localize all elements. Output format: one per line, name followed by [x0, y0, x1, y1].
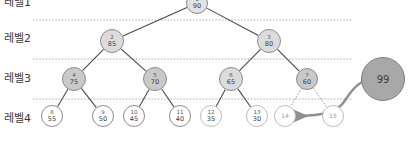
- tree-node-6[interactable]: 665: [219, 67, 243, 91]
- tree-edge-e3-6: [239, 49, 260, 70]
- binary-heap-diagram: 레벨1레벨2레벨3레벨4 190285380475570665760855950…: [0, 0, 411, 141]
- node-value-label: 90: [193, 3, 201, 10]
- node-value-label: 45: [130, 116, 138, 123]
- tree-node-9[interactable]: 950: [92, 105, 114, 127]
- tree-node-13[interactable]: 1330: [246, 105, 268, 127]
- tree-node-5[interactable]: 570: [143, 67, 167, 91]
- tree-node-8[interactable]: 855: [41, 105, 63, 127]
- tree-edge-e1-3: [207, 8, 259, 35]
- tree-edge-e7-14: [291, 88, 302, 106]
- tree-node-14[interactable]: 14: [274, 105, 296, 127]
- tree-node-15[interactable]: 15: [322, 105, 344, 127]
- tree-edge-e5-11: [162, 89, 174, 107]
- tree-edge-group: [58, 7, 327, 107]
- node-value-label: 75: [70, 79, 78, 86]
- insert-node-99[interactable]: 99: [361, 57, 405, 101]
- node-value-label: 30: [253, 116, 261, 123]
- node-value-label: 70: [151, 79, 159, 86]
- tree-node-4[interactable]: 475: [62, 67, 86, 91]
- node-value-label: 85: [108, 41, 116, 48]
- tree-node-11[interactable]: 1140: [169, 105, 191, 127]
- tree-node-10[interactable]: 1045: [123, 105, 145, 127]
- tree-edge-e5-10: [139, 89, 149, 106]
- tree-node-2[interactable]: 285: [100, 29, 124, 53]
- tree-edge-e6-12: [216, 90, 225, 107]
- tree-node-3[interactable]: 380: [257, 29, 281, 53]
- node-value-label: 35: [207, 116, 215, 123]
- node-value-label: 80: [265, 41, 273, 48]
- node-index-label: 14: [281, 113, 289, 119]
- tree-edge-e4-8: [58, 89, 68, 106]
- tree-edge-e2-5: [121, 49, 146, 71]
- tree-edge-e3-7: [277, 49, 299, 71]
- tree-edge-e6-13: [238, 89, 251, 107]
- level-label-level2: 레벨2: [4, 33, 31, 44]
- tree-node-12[interactable]: 1235: [200, 105, 222, 127]
- tree-edge-e4-9: [81, 88, 96, 107]
- tree-edge-e2-4: [82, 49, 103, 70]
- tree-edge-e7-15: [313, 88, 326, 107]
- node-value-label: 50: [99, 116, 107, 123]
- node-value-label: 40: [176, 116, 184, 123]
- level-label-level1: 레벨1: [4, 0, 31, 8]
- level-label-level3: 레벨3: [4, 73, 31, 84]
- tree-node-7[interactable]: 760: [296, 68, 318, 90]
- node-value-label: 65: [227, 79, 235, 86]
- level-label-level4: 레벨4: [4, 113, 31, 124]
- node-value-label: 60: [303, 79, 311, 86]
- tree-edge-e1-2: [123, 7, 187, 36]
- node-value-label: 55: [48, 116, 56, 123]
- node-index-label: 15: [329, 113, 337, 119]
